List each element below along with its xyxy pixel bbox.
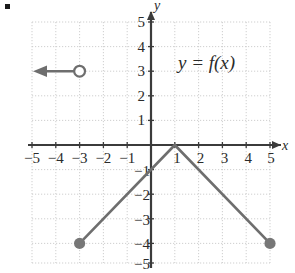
x-tick-label: 4	[244, 150, 252, 166]
x-tick-label: −3	[72, 150, 88, 166]
coordinate-plane-svg: −5 −4 −3 −2 −1 1 2 3 4 5 5 4 3 2 1 −1 −2…	[0, 0, 295, 273]
corner-bullet-marker	[5, 4, 10, 9]
y-tick-label: −5	[134, 256, 150, 272]
y-tick-label: 5	[138, 14, 146, 30]
y-tick-label: 3	[138, 63, 146, 79]
x-tick-label: −1	[119, 150, 135, 166]
closed-dot-marker-right	[264, 238, 275, 249]
x-tick-label: −5	[24, 150, 40, 166]
x-tick-label: −4	[48, 150, 64, 166]
x-axis-arrow	[272, 141, 281, 149]
y-tick-label: −3	[134, 212, 150, 228]
y-tick-label: −4	[134, 236, 150, 252]
y-tick-label: −1	[134, 163, 150, 179]
y-tick-label: 2	[138, 88, 146, 104]
x-tick-label: 5	[267, 150, 275, 166]
function-label: y = f(x)	[176, 52, 235, 74]
y-tick-labels: 5 4 3 2 1 −1 −2 −3 −4 −5	[134, 14, 150, 272]
closed-dot-marker-left	[74, 238, 85, 249]
y-tick-label: 1	[138, 112, 146, 128]
x-tick-label: 2	[197, 150, 205, 166]
graph-figure: −5 −4 −3 −2 −1 1 2 3 4 5 5 4 3 2 1 −1 −2…	[0, 0, 295, 273]
ray-arrowhead-icon	[33, 66, 47, 77]
y-axis-label: y	[152, 0, 161, 13]
axis-arrowheads	[147, 11, 281, 149]
x-tick-label: 3	[221, 150, 229, 166]
x-tick-label: 1	[173, 150, 181, 166]
axes	[28, 12, 281, 268]
y-tick-label: −2	[134, 187, 150, 203]
open-circle-marker	[74, 66, 85, 77]
x-axis-label: x	[281, 138, 289, 153]
x-tick-label: −2	[95, 150, 111, 166]
y-tick-label: 4	[138, 39, 146, 55]
